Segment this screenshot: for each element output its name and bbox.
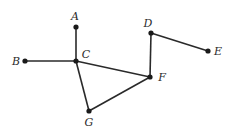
- node-label-f: F: [157, 71, 166, 84]
- edge-c-g: [76, 61, 89, 111]
- node-d: [148, 30, 153, 35]
- edge-c-f: [76, 61, 150, 77]
- node-label-g: G: [85, 116, 94, 129]
- node-b: [22, 58, 27, 63]
- node-g: [86, 108, 91, 113]
- edge-g-f: [89, 77, 150, 111]
- node-label-b: B: [11, 55, 20, 68]
- node-label-a: A: [70, 10, 79, 23]
- node-c: [73, 58, 78, 63]
- graph-diagram: ABCDEFG: [0, 0, 232, 134]
- node-f: [147, 74, 152, 79]
- node-a: [73, 24, 78, 29]
- edge-d-f: [150, 33, 151, 77]
- node-e: [205, 48, 210, 53]
- node-label-d: D: [143, 17, 153, 30]
- node-label-c: C: [82, 48, 91, 61]
- edges-group: [25, 27, 208, 111]
- node-label-e: E: [213, 45, 222, 58]
- edge-d-e: [151, 33, 208, 51]
